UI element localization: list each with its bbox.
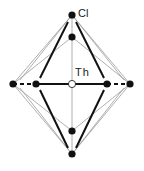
octahedron-diagram: Cl Th bbox=[0, 0, 144, 171]
cl-atom-right-outer bbox=[126, 80, 133, 87]
cl-atom-top-outer bbox=[68, 11, 75, 18]
cl-atom-left-outer bbox=[9, 80, 16, 87]
th-atom-center bbox=[68, 80, 75, 87]
cl-atom-bottom-inner bbox=[68, 127, 75, 134]
th-label: Th bbox=[75, 67, 90, 78]
cl-label: Cl bbox=[78, 8, 88, 19]
cl-atom-bottom-outer bbox=[68, 150, 75, 157]
structure-svg bbox=[0, 0, 144, 171]
cl-atom-top-inner bbox=[68, 33, 75, 40]
cl-atom-left-inner bbox=[32, 80, 39, 87]
cl-atom-right-inner bbox=[103, 80, 110, 87]
